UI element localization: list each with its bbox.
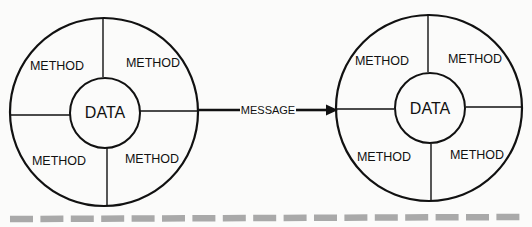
message-label: MESSAGE	[241, 104, 295, 116]
right-data-label: DATA	[410, 100, 451, 117]
left-method-top-right: METHOD	[126, 56, 180, 70]
left-data-label: DATA	[85, 104, 126, 121]
left-object: DATA METHOD METHOD METHOD METHOD	[10, 18, 198, 206]
right-method-bottom-right: METHOD	[450, 148, 504, 162]
right-method-top-right: METHOD	[448, 52, 502, 66]
object-message-diagram: DATA METHOD METHOD METHOD METHOD MESSAGE…	[0, 0, 532, 227]
dashed-divider	[10, 217, 522, 219]
left-method-bottom-left: METHOD	[32, 154, 86, 168]
left-method-bottom-right: METHOD	[125, 152, 179, 166]
message-connector: MESSAGE	[198, 104, 338, 116]
right-method-top-left: METHOD	[355, 54, 409, 68]
left-method-top-left: METHOD	[30, 59, 84, 73]
right-method-bottom-left: METHOD	[357, 150, 411, 164]
right-object: DATA METHOD METHOD METHOD METHOD	[336, 14, 522, 201]
